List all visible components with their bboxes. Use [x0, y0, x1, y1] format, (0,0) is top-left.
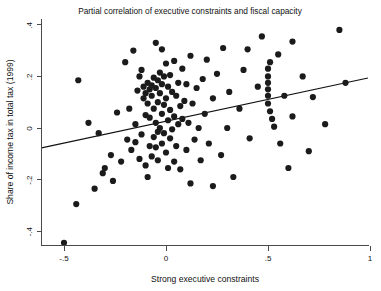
data-point — [163, 149, 169, 155]
data-point — [285, 165, 291, 171]
data-point — [289, 38, 295, 44]
data-point — [200, 76, 206, 82]
chart-title: Partial correlation of executive constra… — [78, 6, 303, 16]
data-point — [161, 130, 167, 136]
data-point — [145, 174, 151, 180]
data-point — [155, 157, 161, 163]
data-point — [122, 59, 128, 65]
data-point — [214, 71, 220, 77]
data-point — [92, 186, 98, 192]
data-point — [167, 72, 173, 78]
data-point — [210, 183, 216, 189]
data-point — [240, 67, 246, 73]
data-point — [255, 84, 261, 90]
data-point — [181, 98, 187, 104]
data-point — [161, 73, 167, 79]
x-tick-label: 1 — [368, 254, 373, 263]
data-point — [153, 120, 159, 126]
data-point — [75, 77, 81, 83]
chart-svg: Partial correlation of executive constra… — [0, 0, 381, 291]
data-point — [226, 89, 232, 95]
data-point — [171, 58, 177, 64]
data-point — [179, 116, 185, 122]
data-point — [224, 125, 230, 131]
data-point — [132, 139, 138, 145]
data-point — [147, 115, 153, 121]
x-axis-title: Strong executive constraints — [151, 274, 259, 284]
data-point — [124, 137, 130, 143]
data-point — [289, 113, 295, 119]
data-point — [265, 100, 271, 106]
data-point — [165, 165, 171, 171]
data-point — [265, 73, 271, 79]
data-point — [73, 201, 79, 207]
data-point — [281, 93, 287, 99]
data-point — [143, 162, 149, 168]
data-point — [300, 73, 306, 79]
data-point — [132, 121, 138, 127]
x-tick-label: -.5 — [59, 254, 69, 263]
data-point — [171, 158, 177, 164]
data-point — [126, 106, 132, 112]
data-point — [165, 117, 171, 123]
data-point — [155, 99, 161, 105]
data-point — [336, 27, 342, 33]
data-point — [136, 73, 142, 79]
data-point — [153, 144, 159, 150]
data-point — [191, 137, 197, 143]
data-point — [185, 120, 191, 126]
data-point — [267, 108, 273, 114]
data-point — [145, 100, 151, 106]
data-point — [187, 180, 193, 186]
data-point — [194, 85, 200, 91]
data-point — [138, 67, 144, 73]
data-point — [189, 100, 195, 106]
data-point — [163, 60, 169, 66]
y-tick-label: .4 — [25, 21, 34, 28]
data-point — [130, 48, 136, 54]
data-point — [159, 111, 165, 117]
scatter-plot-figure: Partial correlation of executive constra… — [0, 0, 381, 291]
y-axis-title: Share of income tax in total tax (1999) — [5, 59, 15, 204]
y-tick-label: -.2 — [25, 175, 34, 185]
data-point — [147, 143, 153, 149]
data-point — [310, 94, 316, 100]
data-point — [342, 80, 348, 86]
data-point — [96, 130, 102, 136]
data-point — [169, 126, 175, 132]
data-point — [159, 81, 165, 87]
data-point — [165, 84, 171, 90]
data-point — [247, 135, 253, 141]
data-point — [134, 87, 140, 93]
data-point — [210, 95, 216, 101]
data-point — [220, 45, 226, 51]
data-point — [153, 40, 159, 46]
data-point — [267, 59, 273, 65]
data-point — [61, 240, 67, 246]
data-point — [151, 106, 157, 112]
data-point — [161, 102, 167, 108]
data-point — [136, 156, 142, 162]
data-point — [149, 93, 155, 99]
data-point — [275, 51, 281, 57]
data-point — [196, 125, 202, 131]
y-tick-label: .2 — [25, 73, 34, 80]
data-point — [153, 85, 159, 91]
data-point — [175, 121, 181, 127]
data-point — [198, 157, 204, 163]
x-tick-label: .5 — [265, 254, 272, 263]
data-point — [171, 113, 177, 119]
data-point — [100, 170, 106, 176]
data-point — [108, 152, 114, 158]
data-point — [306, 148, 312, 154]
data-point — [151, 134, 157, 140]
data-point — [159, 46, 165, 52]
data-point — [173, 93, 179, 99]
data-point — [218, 152, 224, 158]
data-point — [159, 140, 165, 146]
data-point — [265, 86, 271, 92]
data-point — [206, 140, 212, 146]
data-point — [85, 120, 91, 126]
data-point — [271, 124, 277, 130]
data-point — [128, 147, 134, 153]
